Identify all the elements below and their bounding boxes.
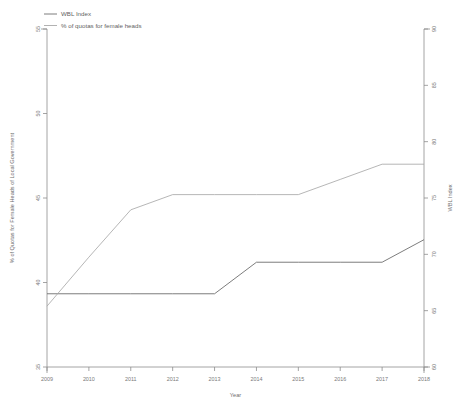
series-line-quota-share xyxy=(47,164,424,306)
x-axis-tick-label: 2016 xyxy=(334,376,346,382)
right-axis-tick-label: 75 xyxy=(431,195,437,201)
x-axis-title: Year xyxy=(230,392,241,398)
x-axis: 2009201020112012201320142015201620172018 xyxy=(41,367,430,382)
right-axis-tick-label: 60 xyxy=(431,364,437,370)
chart-legend: WBL Index% of quotas for female heads xyxy=(44,10,142,29)
x-axis-tick-label: 2010 xyxy=(83,376,95,382)
line-chart: 3540455055 60657075808590 20092010201120… xyxy=(0,0,471,419)
x-axis-tick-label: 2012 xyxy=(167,376,179,382)
x-axis-tick-label: 2011 xyxy=(125,376,137,382)
right-axis-tick-label: 90 xyxy=(431,26,437,32)
right-axis: 60657075808590 xyxy=(424,26,437,370)
x-axis-tick-label: 2013 xyxy=(209,376,221,382)
x-axis-tick-label: 2015 xyxy=(292,376,304,382)
legend-item-label: % of quotas for female heads xyxy=(61,22,142,29)
series-line-wbl-index xyxy=(47,240,424,294)
left-axis-tick-label: 50 xyxy=(35,111,41,117)
left-axis-tick-label: 45 xyxy=(35,195,41,201)
x-axis-tick-label: 2014 xyxy=(250,376,262,382)
chart-container: 3540455055 60657075808590 20092010201120… xyxy=(0,0,471,419)
x-axis-tick-label: 2017 xyxy=(376,376,388,382)
left-axis-tick-label: 40 xyxy=(35,280,41,286)
legend-item-label: WBL Index xyxy=(61,10,92,17)
left-axis-tick-label: 55 xyxy=(35,26,41,32)
right-axis-tick-label: 70 xyxy=(431,251,437,257)
right-axis-tick-label: 65 xyxy=(431,308,437,314)
left-axis: 3540455055 xyxy=(35,26,47,370)
right-axis-tick-label: 85 xyxy=(431,82,437,88)
right-axis-tick-label: 80 xyxy=(431,139,437,145)
axis-titles: % of Quotas for Female Heads of Local Go… xyxy=(9,132,453,398)
x-axis-tick-label: 2018 xyxy=(418,376,430,382)
x-axis-tick-label: 2009 xyxy=(41,376,53,382)
left-axis-tick-label: 35 xyxy=(35,364,41,370)
y-axis-title: % of Quotas for Female Heads of Local Go… xyxy=(9,132,15,263)
series-lines xyxy=(47,164,424,306)
y2-axis-title: WBL Index xyxy=(447,184,453,211)
